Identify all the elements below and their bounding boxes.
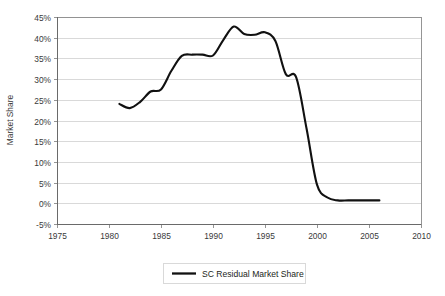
y-tick-label: 45%	[34, 13, 51, 23]
x-axis-tick-labels: 19751980198519901995200020052010	[48, 231, 431, 241]
y-tick-label: 0%	[39, 199, 52, 209]
y-tick-label: 15%	[34, 137, 51, 147]
plot-area-background	[57, 17, 421, 224]
x-tick-label: 1980	[100, 231, 119, 241]
x-tick-label: 1985	[152, 231, 171, 241]
y-tick-label: -5%	[36, 220, 51, 230]
y-tick-label: 25%	[34, 96, 51, 106]
chart-container: -5%0%5%10%15%20%25%30%35%40%45% 19751980…	[0, 0, 445, 296]
y-axis-title: Market Share	[5, 95, 15, 146]
x-tick-label: 1990	[204, 231, 223, 241]
legend-label-sc-residual-market-share: SC Residual Market Share	[202, 269, 304, 279]
y-axis-tickmarks	[54, 18, 58, 225]
x-tick-label: 1975	[48, 231, 67, 241]
y-tick-label: 20%	[34, 117, 51, 127]
x-tick-label: 2000	[308, 231, 327, 241]
y-tick-label: 30%	[34, 75, 51, 85]
x-tick-label: 2010	[412, 231, 431, 241]
y-tick-label: 40%	[34, 34, 51, 44]
y-axis-tick-labels: -5%0%5%10%15%20%25%30%35%40%45%	[34, 13, 51, 230]
x-tick-label: 1995	[256, 231, 275, 241]
y-tick-label: 35%	[34, 54, 51, 64]
y-tick-label: 10%	[34, 158, 51, 168]
y-tick-label: 5%	[39, 179, 52, 189]
line-chart: -5%0%5%10%15%20%25%30%35%40%45% 19751980…	[0, 0, 445, 296]
x-tick-label: 2005	[360, 231, 379, 241]
legend: SC Residual Market Share	[164, 264, 306, 284]
